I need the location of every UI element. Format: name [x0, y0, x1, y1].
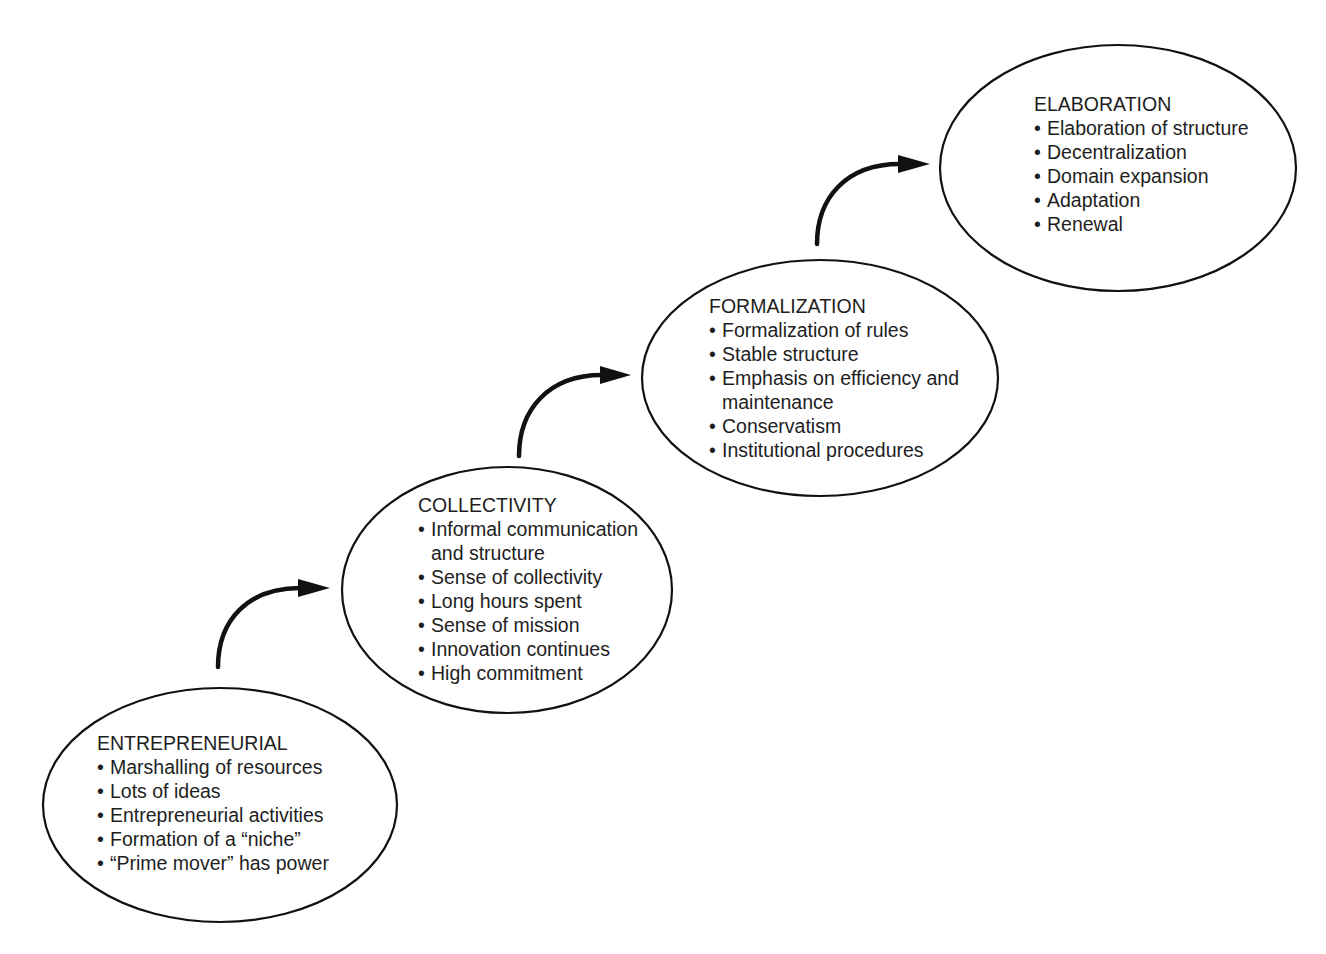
stage-title: ENTREPRENEURIAL	[97, 731, 329, 755]
stage-item: “Prime mover” has power	[97, 851, 329, 875]
stage-collectivity: COLLECTIVITY Informal communication and …	[418, 493, 638, 685]
stage-item: Adaptation	[1034, 188, 1249, 212]
stage-item-list: Marshalling of resources Lots of ideas E…	[97, 755, 329, 875]
stage-item: Formation of a “niche”	[97, 827, 329, 851]
stage-item: Sense of mission	[418, 613, 638, 637]
stage-item: Emphasis on efficiency and maintenance	[709, 366, 959, 414]
stage-title: ELABORATION	[1034, 92, 1249, 116]
stage-item: Renewal	[1034, 212, 1249, 236]
stage-item: Entrepreneurial activities	[97, 803, 329, 827]
stage-item: Innovation continues	[418, 637, 638, 661]
stage-item: Formalization of rules	[709, 318, 959, 342]
arrow-collectivity-to-formalization	[519, 366, 631, 456]
stage-item: Long hours spent	[418, 589, 638, 613]
stage-elaboration: ELABORATION Elaboration of structure Dec…	[1034, 92, 1249, 236]
arrow-entrepreneurial-to-collectivity	[218, 579, 330, 667]
stage-item: Stable structure	[709, 342, 959, 366]
stage-entrepreneurial: ENTREPRENEURIAL Marshalling of resources…	[97, 731, 329, 875]
stage-item: High commitment	[418, 661, 638, 685]
stage-item: Institutional procedures	[709, 438, 959, 462]
stage-item: Elaboration of structure	[1034, 116, 1249, 140]
stage-item-list: Formalization of rules Stable structure …	[709, 318, 959, 462]
stage-item: Informal communication and structure	[418, 517, 638, 565]
stage-item-list: Informal communication and structure Sen…	[418, 517, 638, 685]
stage-title: COLLECTIVITY	[418, 493, 638, 517]
stage-item: Decentralization	[1034, 140, 1249, 164]
stage-item: Sense of collectivity	[418, 565, 638, 589]
stage-formalization: FORMALIZATION Formalization of rules Sta…	[709, 294, 959, 462]
stage-item: Lots of ideas	[97, 779, 329, 803]
stage-item-list: Elaboration of structure Decentralizatio…	[1034, 116, 1249, 236]
stage-title: FORMALIZATION	[709, 294, 959, 318]
stage-item: Marshalling of resources	[97, 755, 329, 779]
arrow-formalization-to-elaboration	[817, 155, 930, 244]
stage-item: Conservatism	[709, 414, 959, 438]
stage-item: Domain expansion	[1034, 164, 1249, 188]
